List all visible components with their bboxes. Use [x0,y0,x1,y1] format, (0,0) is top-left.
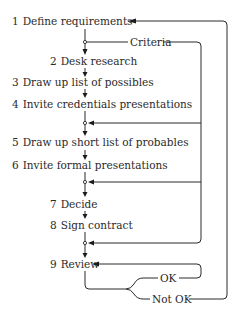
step-2-label: 2Desk research [50,55,137,67]
procurement-flowchart: 1Define requirements 2Desk research 3Dra… [0,0,241,314]
review-outcome-line [85,271,126,289]
step-1-label: 1Define requirements [12,15,133,27]
arrow-criteria-junction-8 [88,241,94,246]
arrow-criteria-junction-6 [88,180,94,185]
arrow-to-step-7 [83,192,88,197]
not-ok-label: Not OK [152,293,192,305]
ok-label: OK [160,272,177,284]
arrow-criteria-junction-4 [88,121,94,126]
step-4-label: 4Invite credentials presentations [12,98,192,110]
flowchart-canvas: 1Define requirements 2Desk research 3Dra… [0,0,241,314]
step-3-label: 3Draw up list of possibles [12,76,154,88]
step-7-label: 7Decide [50,198,98,210]
ok-branch-line [126,278,158,289]
step-9-label: 9Review [50,258,99,270]
criteria-junction [83,40,86,43]
not-ok-branch-line [126,289,150,299]
step-6-label: 6Invite formal presentations [12,159,168,171]
junction-after-step-8 [83,241,86,244]
junction-after-step-6 [83,180,86,183]
step-5-label: 5Draw up short list of probables [12,136,189,148]
ok-loop-line [98,264,201,278]
step-8-label: 8Sign contract [50,219,133,231]
junction-after-step-4 [83,121,86,124]
